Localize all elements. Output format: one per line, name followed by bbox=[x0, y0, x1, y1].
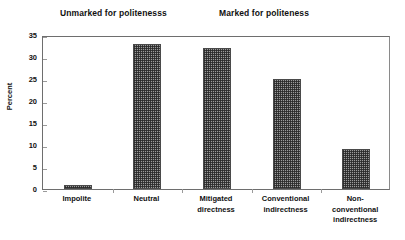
y-tick-label-30: 30 bbox=[11, 54, 37, 62]
x-tick-mark bbox=[252, 189, 253, 193]
x-tick-mark bbox=[113, 189, 114, 193]
group-label-unmarked: Unmarked for politenesss bbox=[60, 8, 167, 18]
x-label-non-conventional-indirectness: Non-conventionalindirectness bbox=[320, 194, 390, 226]
bar-mitigated-directness bbox=[203, 48, 231, 189]
x-label-impolite: Impolite bbox=[42, 194, 112, 205]
x-tick-mark bbox=[321, 189, 322, 193]
y-tick-label-0: 0 bbox=[11, 186, 37, 194]
x-label-neutral: Neutral bbox=[112, 194, 182, 205]
bar-impolite bbox=[64, 185, 92, 189]
y-tick-label-25: 25 bbox=[11, 76, 37, 84]
plot-area bbox=[42, 36, 390, 190]
bar-conventional-indirectness bbox=[273, 79, 301, 189]
x-label-line: Mitigated bbox=[181, 194, 251, 205]
group-label-marked: Marked for politeness bbox=[219, 8, 309, 18]
y-tick-mark bbox=[43, 191, 47, 192]
x-label-mitigated-directness: Mitigateddirectness bbox=[181, 194, 251, 215]
bar-slot bbox=[43, 37, 113, 189]
x-label-line: indirectness bbox=[251, 205, 321, 216]
x-label-line: directness bbox=[181, 205, 251, 216]
group-header-row: Unmarked for politenesss Marked for poli… bbox=[0, 0, 405, 28]
bar-neutral bbox=[133, 44, 161, 189]
y-tick-label-15: 15 bbox=[11, 120, 37, 128]
x-label-conventional-indirectness: Conventionalindirectness bbox=[251, 194, 321, 215]
y-tick-label-20: 20 bbox=[11, 98, 37, 106]
bar-slot bbox=[113, 37, 183, 189]
x-label-line: indirectness bbox=[320, 215, 390, 226]
x-label-line: Conventional bbox=[251, 194, 321, 205]
x-axis-category-labels: ImpoliteNeutralMitigateddirectnessConven… bbox=[42, 194, 390, 238]
bar-slot bbox=[252, 37, 322, 189]
x-tick-mark bbox=[182, 189, 183, 193]
x-label-line: Neutral bbox=[112, 194, 182, 205]
y-tick-label-5: 5 bbox=[11, 164, 37, 172]
x-label-line: Non- bbox=[320, 194, 390, 205]
x-label-line: conventional bbox=[320, 205, 390, 216]
y-tick-label-10: 10 bbox=[11, 142, 37, 150]
bar-non-conventional-indirectness bbox=[342, 149, 370, 189]
bar-series bbox=[43, 37, 389, 189]
chart-figure: Unmarked for politenesss Marked for poli… bbox=[0, 0, 405, 240]
bar-slot bbox=[321, 37, 391, 189]
y-tick-label-35: 35 bbox=[11, 32, 37, 40]
x-label-line: Impolite bbox=[42, 194, 112, 205]
bar-slot bbox=[182, 37, 252, 189]
